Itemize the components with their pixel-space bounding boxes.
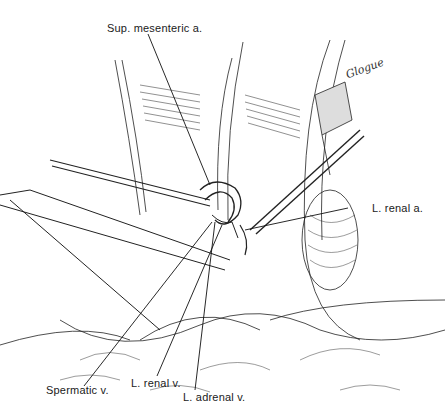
surgical-illustration: Glogue Sup. mesenteric a. L. renal a. Sp… [0, 0, 445, 420]
leader-sup-mesenteric [148, 34, 210, 185]
label-spermatic-vein: Spermatic v. [46, 384, 109, 396]
leader-spermatic-v [84, 222, 212, 386]
label-left-renal-artery: L. renal a. [372, 202, 423, 214]
leader-renal-a [245, 208, 348, 230]
label-left-renal-vein: L. renal v. [131, 377, 181, 389]
leader-adrenal-v [195, 222, 215, 390]
label-sup-mesenteric-artery: Sup. mesenteric a. [107, 22, 202, 34]
label-left-adrenal-vein: L. adrenal v. [183, 391, 245, 403]
